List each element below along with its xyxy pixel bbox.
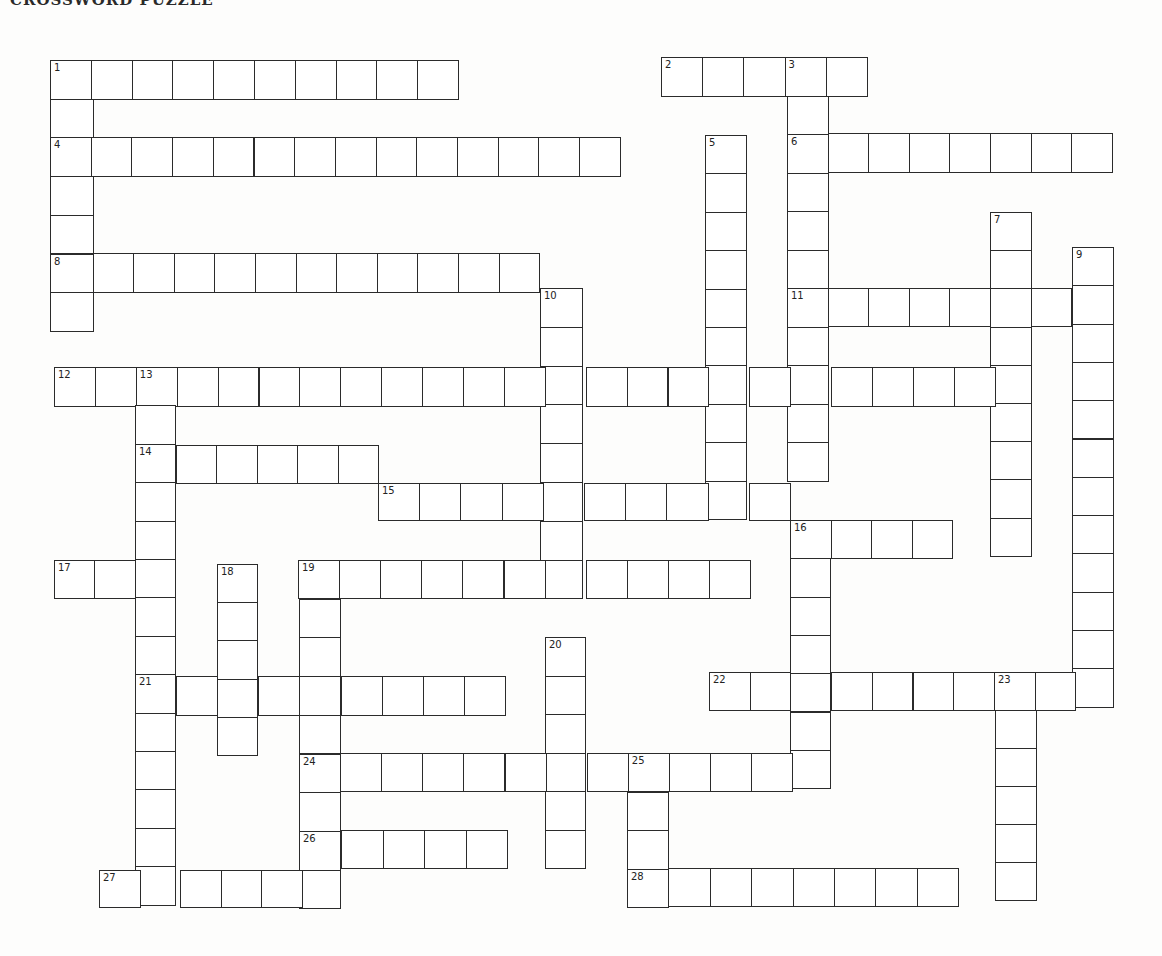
crossword-cell[interactable] [545, 753, 586, 793]
cell-letter-input[interactable] [829, 289, 869, 326]
crossword-cell[interactable] [627, 367, 669, 407]
cell-letter-input[interactable] [995, 673, 1035, 710]
cell-letter-input[interactable] [546, 831, 585, 869]
cell-letter-input[interactable] [300, 638, 340, 676]
crossword-cell[interactable] [540, 404, 583, 444]
cell-letter-input[interactable] [134, 254, 174, 292]
crossword-cell[interactable] [380, 560, 422, 599]
cell-letter-input[interactable] [706, 405, 746, 442]
cell-letter-input[interactable] [461, 484, 501, 520]
cell-letter-input[interactable] [424, 677, 464, 715]
cell-letter-input[interactable] [955, 368, 995, 406]
cell-letter-input[interactable] [546, 792, 585, 830]
cell-letter-input[interactable] [827, 58, 867, 96]
crossword-cell[interactable] [1035, 672, 1077, 711]
cell-letter-input[interactable] [217, 446, 257, 483]
crossword-cell[interactable] [133, 253, 175, 293]
cell-letter-input[interactable] [1073, 593, 1113, 630]
crossword-cell[interactable] [705, 442, 747, 481]
crossword-cell[interactable] [990, 133, 1032, 173]
crossword-cell[interactable] [749, 483, 791, 521]
cell-letter-input[interactable] [835, 869, 875, 906]
crossword-cell[interactable] [586, 367, 628, 407]
crossword-cell[interactable] [416, 137, 458, 177]
cell-letter-input[interactable] [260, 368, 300, 406]
cell-letter-input[interactable] [1036, 673, 1076, 710]
cell-letter-input[interactable] [262, 871, 302, 907]
cell-letter-input[interactable] [384, 831, 424, 868]
cell-letter-input[interactable] [539, 138, 579, 176]
crossword-cell[interactable] [586, 560, 628, 599]
cell-letter-input[interactable] [1073, 286, 1113, 323]
crossword-cell[interactable] [990, 250, 1032, 289]
cell-letter-input[interactable] [341, 368, 381, 406]
crossword-cell[interactable] [299, 715, 341, 755]
cell-letter-input[interactable] [136, 598, 175, 635]
cell-letter-input[interactable] [546, 715, 585, 753]
crossword-cell[interactable] [790, 558, 831, 597]
crossword-cell[interactable]: 22 [709, 672, 751, 711]
crossword-cell[interactable] [1072, 592, 1114, 631]
cell-letter-input[interactable] [136, 522, 175, 559]
cell-letter-input[interactable] [1073, 516, 1113, 553]
crossword-cell[interactable]: 20 [545, 637, 586, 677]
crossword-cell[interactable] [382, 676, 424, 716]
crossword-cell[interactable] [463, 367, 505, 407]
crossword-cell[interactable] [1072, 362, 1114, 401]
cell-letter-input[interactable] [136, 867, 175, 904]
cell-letter-input[interactable] [259, 677, 299, 715]
cell-letter-input[interactable] [459, 254, 499, 292]
cell-letter-input[interactable] [996, 863, 1036, 900]
crossword-cell[interactable] [990, 327, 1032, 366]
cell-letter-input[interactable] [1073, 401, 1113, 438]
crossword-cell[interactable] [579, 137, 621, 177]
crossword-cell[interactable]: 28 [627, 869, 669, 909]
crossword-cell[interactable]: 9 [1072, 247, 1114, 286]
crossword-cell[interactable] [990, 479, 1032, 518]
crossword-cell[interactable]: 19 [298, 560, 340, 599]
crossword-cell[interactable] [417, 253, 459, 293]
cell-letter-input[interactable] [910, 134, 950, 172]
cell-letter-input[interactable] [219, 368, 259, 406]
cell-letter-input[interactable] [340, 561, 380, 598]
crossword-cell[interactable] [180, 870, 222, 908]
cell-letter-input[interactable] [580, 138, 620, 176]
cell-letter-input[interactable] [377, 61, 417, 99]
crossword-cell[interactable] [790, 635, 831, 674]
cell-letter-input[interactable] [910, 289, 950, 326]
cell-letter-input[interactable] [173, 61, 213, 99]
cell-letter-input[interactable] [710, 673, 750, 710]
cell-letter-input[interactable] [383, 677, 423, 715]
cell-letter-input[interactable] [505, 368, 545, 406]
crossword-cell[interactable] [751, 753, 793, 792]
cell-letter-input[interactable] [954, 673, 994, 710]
cell-letter-input[interactable] [914, 368, 954, 406]
cell-letter-input[interactable] [218, 603, 257, 640]
cell-letter-input[interactable] [996, 825, 1036, 862]
crossword-cell[interactable] [336, 253, 378, 293]
cell-letter-input[interactable] [950, 134, 990, 172]
cell-letter-input[interactable] [463, 561, 503, 598]
cell-letter-input[interactable] [703, 58, 743, 96]
cell-letter-input[interactable] [991, 134, 1031, 172]
cell-letter-input[interactable] [503, 484, 543, 520]
crossword-cell[interactable] [424, 830, 466, 869]
crossword-cell[interactable] [868, 133, 910, 173]
cell-letter-input[interactable] [464, 368, 504, 406]
cell-letter-input[interactable] [256, 254, 296, 292]
cell-letter-input[interactable] [218, 680, 257, 717]
cell-letter-input[interactable] [587, 368, 627, 406]
cell-letter-input[interactable] [791, 521, 831, 558]
crossword-cell[interactable] [705, 250, 747, 289]
cell-letter-input[interactable] [872, 521, 912, 558]
crossword-cell[interactable] [377, 253, 419, 293]
crossword-cell[interactable] [587, 753, 629, 792]
crossword-cell[interactable] [872, 367, 914, 407]
crossword-cell[interactable]: 6 [787, 134, 829, 174]
cell-letter-input[interactable] [418, 254, 458, 292]
crossword-cell[interactable]: 14 [135, 444, 176, 483]
cell-letter-input[interactable] [750, 484, 790, 520]
crossword-cell[interactable] [995, 862, 1037, 901]
crossword-cell[interactable] [705, 404, 747, 443]
cell-letter-input[interactable] [791, 636, 830, 673]
